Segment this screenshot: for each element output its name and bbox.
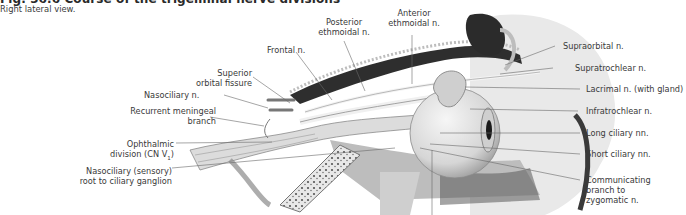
label-line: division (CN V1)	[90, 149, 174, 163]
label-text: division (CN V	[110, 149, 167, 159]
label-posterior-ethmoidal-nerve: Posterior ethmoidal n.	[312, 17, 376, 37]
label-nasociliary-root: Nasociliary (sensory) root to ciliary ga…	[25, 166, 172, 186]
label-line: branch to	[586, 185, 651, 195]
label-nasociliary-nerve: Nasociliary n.	[144, 90, 199, 100]
label-line: orbital fissure	[180, 78, 252, 88]
label-line: Communicating	[586, 175, 651, 185]
label-supratrochlear-nerve: Supratrochlear n.	[575, 63, 646, 73]
label-ophthalmic-division: Ophthalmic division (CN V1)	[90, 139, 174, 163]
label-line: root to ciliary ganglion	[25, 176, 172, 186]
label-line: Ophthalmic	[90, 139, 174, 149]
label-line: Superior	[180, 68, 252, 78]
label-short-ciliary-nerves: Short ciliary nn.	[586, 149, 651, 159]
label-line: Nasociliary (sensory)	[25, 166, 172, 176]
label-line: ethmoidal n.	[312, 27, 376, 37]
label-line: zygomatic n.	[586, 195, 651, 205]
label-long-ciliary-nerves: Long ciliary nn.	[586, 128, 649, 138]
label-line: ethmoidal n.	[382, 18, 446, 28]
label-infratrochlear-nerve: Infratrochlear n.	[586, 106, 652, 116]
label-superior-orbital-fissure: Superior orbital fissure	[180, 68, 252, 88]
label-line: Anterior	[382, 8, 446, 18]
label-recurrent-meningeal-branch: Recurrent meningeal branch	[119, 106, 216, 126]
label-communicating-branch: Communicating branch to zygomatic n.	[586, 175, 651, 205]
label-line: Recurrent meningeal	[119, 106, 216, 116]
label-text: )	[171, 149, 174, 159]
sphenoid-bone	[280, 145, 360, 212]
fissure-marker	[268, 100, 294, 110]
label-anterior-ethmoidal-nerve: Anterior ethmoidal n.	[382, 8, 446, 28]
label-line: branch	[119, 116, 216, 126]
label-frontal-nerve: Frontal n.	[267, 45, 305, 55]
label-line: Posterior	[312, 17, 376, 27]
label-lacrimal-nerve: Lacrimal n. (with gland)	[586, 84, 683, 94]
label-supraorbital-nerve: Supraorbital n.	[563, 41, 624, 51]
